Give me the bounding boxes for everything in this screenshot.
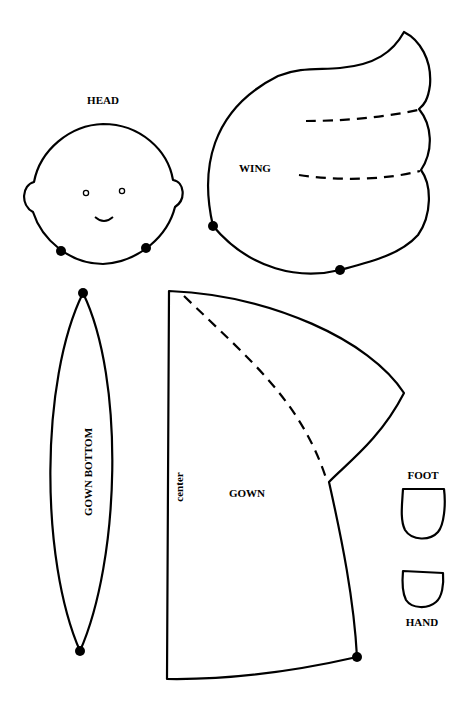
head-mark-right <box>141 243 151 253</box>
gown-fold-line <box>184 296 326 478</box>
gown-bottom-mark-bottom <box>75 646 85 656</box>
wing-outline <box>208 32 430 274</box>
gown-center-label: center <box>173 472 185 501</box>
wing-piece: WING <box>208 32 430 275</box>
wing-fold-line-1 <box>306 110 418 121</box>
head-outline <box>24 124 183 264</box>
gown-bottom-mark-top <box>78 288 88 298</box>
head-mark-left <box>56 246 66 256</box>
gown-label: GOWN <box>229 487 265 499</box>
wing-mark-bottom <box>335 265 345 275</box>
hand-label: HAND <box>406 616 438 628</box>
wing-fold-line-2 <box>299 171 420 179</box>
pattern-sheet: HEAD WING GOWN BOTTOM GOWN center FOOT <box>0 0 469 706</box>
hand-piece: HAND <box>402 571 443 628</box>
right-eye-icon <box>119 188 124 193</box>
foot-outline <box>402 489 445 539</box>
hand-outline <box>402 571 443 607</box>
head-label: HEAD <box>87 94 119 106</box>
wing-label: WING <box>239 162 271 174</box>
gown-mark <box>352 652 362 662</box>
gown-piece: GOWN center <box>167 291 404 679</box>
gown-bottom-label: GOWN BOTTOM <box>82 427 94 516</box>
gown-outline <box>167 291 404 679</box>
head-piece: HEAD <box>24 94 183 264</box>
left-eye-icon <box>83 190 88 195</box>
wing-mark-left <box>208 221 218 231</box>
foot-piece: FOOT <box>402 469 445 539</box>
gown-bottom-piece: GOWN BOTTOM <box>50 288 112 656</box>
foot-label: FOOT <box>407 469 439 481</box>
smile-icon <box>95 217 113 221</box>
